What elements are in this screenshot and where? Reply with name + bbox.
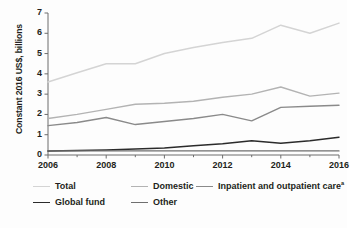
legend-swatch — [131, 186, 148, 187]
legend-swatch — [33, 202, 50, 203]
legend-label: Inpatient and outpatient carea — [218, 181, 344, 191]
x-tick-label: 2008 — [86, 160, 126, 170]
y-tick-label: 2 — [28, 108, 42, 118]
legend-swatch — [196, 186, 213, 187]
legend-item-other[interactable]: Other — [131, 197, 177, 207]
legend-swatch — [131, 202, 148, 203]
y-axis-title: Constant 2016 US$, billions — [14, 4, 24, 154]
legend-item-inpatient-and-outpatient-care[interactable]: Inpatient and outpatient carea — [196, 181, 344, 191]
legend-item-global-fund[interactable]: Global fund — [33, 197, 105, 207]
legend-footnote-marker: a — [341, 180, 344, 186]
x-tick-label: 2006 — [28, 160, 68, 170]
x-tick-label: 2016 — [319, 160, 354, 170]
series-line-global-fund — [48, 137, 339, 151]
y-tick-label: 7 — [28, 7, 42, 17]
legend-label: Domestic — [153, 181, 194, 191]
y-tick-label: 5 — [28, 48, 42, 58]
legend-label: Global fund — [55, 197, 105, 207]
x-tick-label: 2010 — [144, 160, 184, 170]
legend-label: Other — [153, 197, 177, 207]
series-line-inpatient-and-outpatient-care — [48, 105, 339, 125]
legend-label: Total — [55, 181, 76, 191]
y-tick-label: 0 — [28, 149, 42, 159]
plot-area: Constant 2016 US$, billions 01234567 200… — [0, 0, 347, 176]
legend-item-total[interactable]: Total — [33, 181, 76, 191]
line-chart-svg — [0, 0, 347, 176]
y-tick-label: 1 — [28, 129, 42, 139]
series-line-domestic — [48, 87, 339, 118]
legend-item-domestic[interactable]: Domestic — [131, 181, 194, 191]
x-tick-label: 2012 — [203, 160, 243, 170]
y-tick-label: 4 — [28, 68, 42, 78]
legend-swatch — [33, 186, 50, 187]
series-line-total — [48, 23, 339, 82]
y-tick-label: 6 — [28, 27, 42, 37]
chart-legend: TotalDomesticInpatient and outpatient ca… — [0, 181, 347, 225]
y-tick-label: 3 — [28, 88, 42, 98]
x-tick-label: 2014 — [261, 160, 301, 170]
